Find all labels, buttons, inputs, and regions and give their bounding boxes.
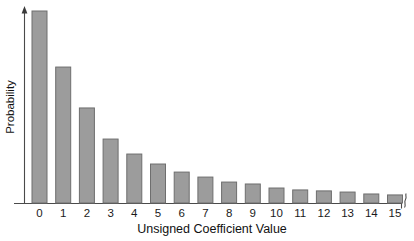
bar [79,108,94,203]
bar [364,194,379,203]
x-tick-label: 9 [250,207,256,219]
chart-canvas: 0123456789101112131415 Unsigned Coeffici… [0,0,414,241]
x-tick-label: 1 [60,207,66,219]
bar [56,67,71,203]
probability-bar-chart: 0123456789101112131415 Unsigned Coeffici… [0,0,414,241]
x-tick-label: 4 [131,207,138,219]
bar [151,164,166,203]
x-tick-label: 13 [341,207,354,219]
x-tick-label: 8 [226,207,232,219]
x-tick-label: 7 [202,207,208,219]
x-tick-label: 14 [365,207,378,219]
x-axis-title: Unsigned Coefficient Value [137,222,287,236]
bar [198,177,213,203]
bar [388,195,403,203]
bar [222,182,237,203]
x-tick-label: 12 [318,207,331,219]
bar [245,184,260,203]
bar [103,139,118,203]
x-tick-label: 6 [178,207,184,219]
x-tick-label: 10 [270,207,283,219]
bar [174,172,189,203]
x-tick-labels-layer: 0123456789101112131415 [36,207,401,219]
x-tick-label: 11 [294,207,306,219]
y-axis-group [22,6,28,204]
bar [340,192,355,203]
bar [293,190,308,203]
x-tick-label: 3 [107,207,113,219]
bar [316,191,331,203]
x-tick-label: 15 [389,207,402,219]
x-tick-label: 2 [84,207,90,219]
bars-layer [32,11,403,203]
bar [127,154,142,203]
y-axis-arrow-icon [22,6,28,14]
x-tick-label: 0 [36,207,42,219]
bar [32,11,47,203]
y-axis-title: Probability [4,80,16,134]
x-tick-label: 5 [155,207,161,219]
bar [269,188,284,203]
